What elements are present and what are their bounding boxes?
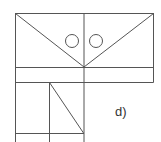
lower-diagonal — [50, 83, 84, 134]
left-circle — [66, 35, 79, 48]
right-diagonal — [84, 14, 154, 68]
geometric-figure — [0, 0, 161, 142]
left-diagonal — [16, 14, 85, 68]
right-circle — [90, 35, 103, 48]
figure-label: d) — [115, 104, 127, 119]
